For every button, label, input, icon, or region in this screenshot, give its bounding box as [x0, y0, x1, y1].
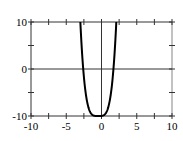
x-tick-label: 0	[99, 120, 105, 132]
tick-labels: -10-50510-10010	[12, 16, 178, 132]
y-tick-label: -10	[12, 110, 27, 122]
chart: -10-50510-10010	[0, 0, 183, 141]
y-tick-label: 0	[22, 63, 28, 75]
x-tick-label: 10	[167, 120, 179, 132]
plot-frame	[31, 22, 172, 116]
x-tick-label: -5	[62, 120, 72, 132]
x-tick-label: 5	[134, 120, 140, 132]
y-tick-label: 10	[16, 16, 28, 28]
